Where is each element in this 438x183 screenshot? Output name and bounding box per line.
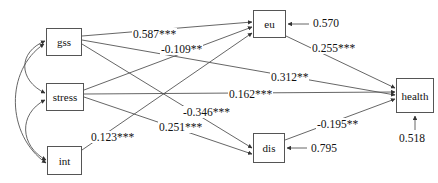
node-stress-label: stress <box>53 91 77 103</box>
node-health-label: health <box>402 90 429 102</box>
residual-label-dis: 0.795 <box>310 142 338 154</box>
edge-label-eu-health: 0.255*** <box>311 42 356 54</box>
edge-label-gss-health: 0.312** <box>270 71 309 83</box>
edge-label-int-eu: 0.123*** <box>90 131 135 143</box>
residual-label-eu: 0.570 <box>312 17 340 29</box>
covariance-stress-int <box>26 100 46 160</box>
path-diagram: gss stress int eu dis health 0.587*** -0… <box>0 0 438 183</box>
covariance-gss-stress <box>25 41 45 93</box>
node-gss-label: gss <box>57 36 71 48</box>
node-int-label: int <box>59 155 71 167</box>
edge-label-stress-health: 0.162*** <box>228 88 273 100</box>
edge-label-stress-dis: 0.251*** <box>158 121 203 133</box>
edge-label-dis-health: -0.195** <box>316 118 359 130</box>
node-int[interactable]: int <box>47 146 82 175</box>
node-gss[interactable]: gss <box>46 28 82 56</box>
edge-label-gss-dis: -0.346*** <box>182 106 231 118</box>
node-eu-label: eu <box>264 18 274 30</box>
node-stress[interactable]: stress <box>46 83 84 111</box>
residual-label-health: 0.518 <box>398 132 426 144</box>
edge-label-stress-eu: -0.109** <box>160 43 203 55</box>
node-eu[interactable]: eu <box>253 10 286 38</box>
edge-label-gss-eu: 0.587*** <box>132 28 177 40</box>
node-dis[interactable]: dis <box>253 133 285 163</box>
node-dis-label: dis <box>263 142 276 154</box>
covariance-gss-int <box>15 44 46 163</box>
node-health[interactable]: health <box>396 78 434 113</box>
